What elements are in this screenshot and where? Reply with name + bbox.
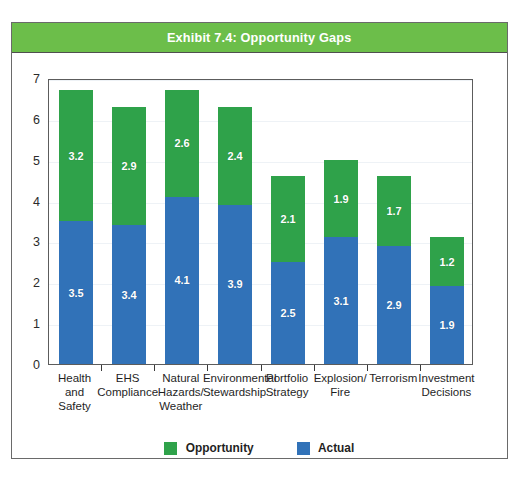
page-title: Exhibit 7.4: Opportunity Gaps xyxy=(167,30,352,45)
legend-label: Actual xyxy=(318,441,354,455)
gridline xyxy=(49,80,472,81)
bar-segment-actual[interactable]: 2.5 xyxy=(271,262,305,364)
x-axis-label-line: Safety xyxy=(44,399,106,413)
bar-segment-actual[interactable]: 4.1 xyxy=(165,197,199,365)
bar-segment-actual[interactable]: 3.4 xyxy=(112,225,146,364)
x-axis-label-line: Fire xyxy=(309,385,371,399)
bar-value-label: 3.5 xyxy=(68,287,83,299)
stacked-bar[interactable]: 1.93.1 xyxy=(324,160,358,364)
bar-segment-opportunity[interactable]: 2.6 xyxy=(165,90,199,196)
legend-label: Opportunity xyxy=(185,441,253,455)
stacked-bar[interactable]: 2.43.9 xyxy=(218,107,252,364)
y-tick-label: 5 xyxy=(33,154,40,168)
bar-value-label: 4.1 xyxy=(174,274,189,286)
bar-segment-opportunity[interactable]: 3.2 xyxy=(59,90,93,221)
bar-segment-actual[interactable]: 3.5 xyxy=(59,221,93,364)
bar-value-label: 1.7 xyxy=(387,205,402,217)
stacked-bar[interactable]: 1.72.9 xyxy=(377,176,411,364)
bar-segment-actual[interactable]: 2.9 xyxy=(377,246,411,364)
y-tick-label: 4 xyxy=(33,195,40,209)
stacked-bar[interactable]: 2.93.4 xyxy=(112,107,146,364)
x-axis-label: InvestmentDecisions xyxy=(415,371,477,399)
chart-title-bar: Exhibit 7.4: Opportunity Gaps xyxy=(12,23,507,53)
bar-value-label: 1.2 xyxy=(440,256,455,268)
bar-value-label: 2.5 xyxy=(280,307,295,319)
y-tick-label: 0 xyxy=(33,358,40,372)
bar-segment-actual[interactable]: 1.9 xyxy=(430,286,464,364)
bar-value-label: 3.2 xyxy=(68,150,83,162)
bar-value-label: 2.9 xyxy=(387,299,402,311)
plot-area: 3.23.52.93.42.64.12.43.92.12.51.93.11.72… xyxy=(48,79,473,365)
x-axis-labels: HealthandSafetyEHSComplianceNaturalHazar… xyxy=(48,371,473,425)
chart-legend: OpportunityActual xyxy=(12,441,507,455)
x-axis-label-line: Investment xyxy=(415,371,477,385)
bar-segment-actual[interactable]: 3.9 xyxy=(218,205,252,364)
bar-value-label: 3.4 xyxy=(121,289,136,301)
stacked-bar[interactable]: 3.23.5 xyxy=(59,90,93,364)
bar-segment-opportunity[interactable]: 1.9 xyxy=(324,160,358,238)
x-axis-label-line: Weather xyxy=(150,399,212,413)
bar-segment-opportunity[interactable]: 2.4 xyxy=(218,107,252,205)
stacked-bar[interactable]: 1.21.9 xyxy=(430,237,464,364)
y-tick-label: 7 xyxy=(33,72,40,86)
y-tick-label: 1 xyxy=(33,317,40,331)
bar-segment-opportunity[interactable]: 1.7 xyxy=(377,176,411,245)
bar-value-label: 3.9 xyxy=(227,278,242,290)
bar-segment-opportunity[interactable]: 2.1 xyxy=(271,176,305,262)
y-tick-label: 2 xyxy=(33,276,40,290)
bar-value-label: 2.6 xyxy=(174,137,189,149)
bar-value-label: 2.4 xyxy=(227,150,242,162)
y-axis: 01234567 xyxy=(12,79,46,365)
stacked-bar[interactable]: 2.12.5 xyxy=(271,176,305,364)
stacked-bar[interactable]: 2.64.1 xyxy=(165,90,199,364)
bar-segment-opportunity[interactable]: 2.9 xyxy=(112,107,146,225)
bar-value-label: 2.9 xyxy=(121,160,136,172)
x-axis-label-line: Decisions xyxy=(415,385,477,399)
bar-segment-opportunity[interactable]: 1.2 xyxy=(430,237,464,286)
legend-swatch xyxy=(297,442,310,455)
plot-wrapper: 01234567 3.23.52.93.42.64.12.43.92.12.51… xyxy=(12,54,507,458)
legend-item[interactable]: Actual xyxy=(297,441,355,455)
y-tick-label: 6 xyxy=(33,113,40,127)
bar-value-label: 1.9 xyxy=(334,193,349,205)
bar-segment-actual[interactable]: 3.1 xyxy=(324,237,358,364)
chart-figure: Exhibit 7.4: Opportunity Gaps 01234567 3… xyxy=(11,22,508,459)
y-tick-label: 3 xyxy=(33,235,40,249)
bar-value-label: 1.9 xyxy=(440,319,455,331)
bar-value-label: 2.1 xyxy=(280,213,295,225)
legend-item[interactable]: Opportunity xyxy=(164,441,256,455)
bar-value-label: 3.1 xyxy=(334,295,349,307)
legend-swatch xyxy=(164,442,177,455)
